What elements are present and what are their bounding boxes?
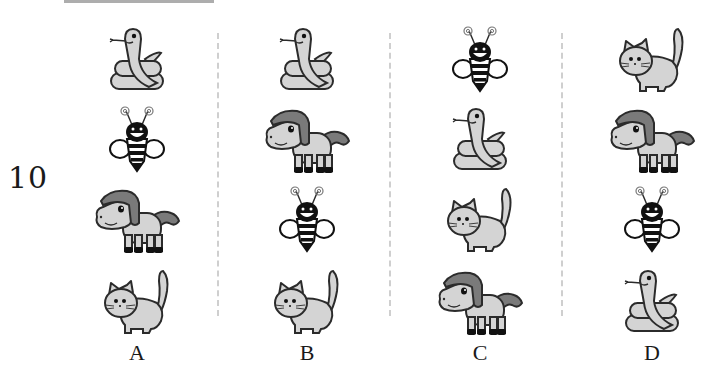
animal-cell-horse (577, 100, 704, 180)
snake-icon (275, 25, 339, 95)
snake-icon (620, 267, 684, 337)
animal-cell-snake (577, 262, 704, 342)
animal-cell-cat (232, 262, 382, 342)
animal-cell-bee (577, 180, 704, 260)
cat-icon (616, 25, 688, 95)
animal-cell-bee (232, 180, 382, 260)
horse-icon (259, 103, 355, 177)
option-label: D (577, 340, 704, 366)
option-column-b: B (232, 0, 382, 379)
animal-cell-horse (62, 180, 212, 260)
bee-icon (110, 105, 164, 175)
animal-cell-horse (232, 100, 382, 180)
animal-cell-horse (405, 262, 555, 342)
animal-cell-bee (405, 20, 555, 100)
animal-cell-cat (62, 262, 212, 342)
horse-icon (604, 103, 700, 177)
dashed-divider (561, 33, 563, 316)
animal-cell-cat (577, 20, 704, 100)
animal-cell-bee (62, 100, 212, 180)
bee-icon (625, 185, 679, 255)
option-label: A (62, 340, 212, 366)
animal-cell-snake (232, 20, 382, 100)
cat-icon (444, 185, 516, 255)
question-number: 10 (8, 160, 48, 195)
snake-icon (105, 25, 169, 95)
bee-icon (453, 25, 507, 95)
option-column-a: A (62, 0, 212, 379)
option-label: B (232, 340, 382, 366)
bee-icon (280, 185, 334, 255)
cat-icon (271, 267, 343, 337)
animal-cell-snake (405, 100, 555, 180)
animal-cell-snake (62, 20, 212, 100)
option-column-c: C (405, 0, 555, 379)
dashed-divider (389, 33, 391, 316)
option-label: C (405, 340, 555, 366)
cat-icon (101, 267, 173, 337)
animal-cell-cat (405, 180, 555, 260)
option-column-d: D (577, 0, 704, 379)
snake-icon (448, 105, 512, 175)
horse-icon (432, 265, 528, 339)
dashed-divider (217, 33, 219, 316)
horse-icon (89, 183, 185, 257)
